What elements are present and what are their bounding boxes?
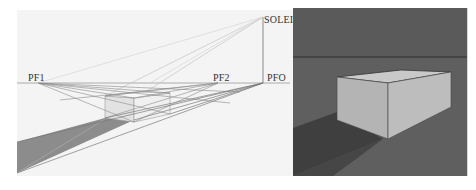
label-pf1: PF1 [28,73,45,83]
render-drawing [293,8,467,176]
rendered-box-scene [293,8,468,176]
perspective-construction-diagram: PF1 PF2 PFO SOLEIL [0,0,293,190]
label-pf2: PF2 [213,73,230,83]
label-pfo: PFO [267,73,286,83]
construction-drawing [0,0,293,190]
